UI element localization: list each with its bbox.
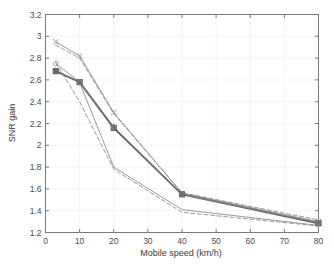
marker-x-upper-solid-x: [53, 39, 58, 44]
x-tick-label: 0: [43, 237, 48, 246]
y-tick-label: 1.2: [30, 228, 42, 237]
y-tick-label: 1.4: [30, 206, 42, 215]
grid-lines: [46, 15, 319, 233]
series-line-lower-dashed-ci: [56, 62, 319, 226]
y-tick-label: 3.2: [30, 10, 42, 19]
y-tick-label: 1.8: [30, 163, 42, 172]
chart-figure: 01020304050607080 1.21.41.61.822.22.42.6…: [0, 0, 334, 270]
y-tick-label: 2.4: [30, 97, 42, 106]
marker-square-mean-bold-square: [53, 69, 58, 74]
y-axis-title: SNR gain: [7, 104, 17, 143]
x-tick-label: 40: [177, 237, 186, 246]
y-tick-label: 2.6: [30, 76, 42, 85]
series-line-lower-solid: [56, 70, 319, 225]
x-tick-label: 80: [314, 237, 323, 246]
x-tick-label: 10: [75, 237, 84, 246]
marker-square-mean-bold-square: [77, 79, 82, 84]
y-tick-label: 2: [37, 141, 42, 150]
x-axis-title: Mobile speed (km/h): [140, 248, 222, 258]
x-tick-label: 30: [143, 237, 152, 246]
x-tick-label: 70: [280, 237, 289, 246]
x-tick-label: 50: [211, 237, 220, 246]
series-line-middle-solid-diamond: [56, 64, 319, 223]
y-tick-label: 2.2: [30, 119, 42, 128]
y-tick-label: 2.8: [30, 54, 42, 63]
plot-canvas: [0, 0, 334, 270]
series-line-mean-bold-square: [56, 71, 319, 223]
y-tick-label: 3: [37, 32, 42, 41]
y-tick-label: 1.6: [30, 185, 42, 194]
x-tick-label: 20: [109, 237, 118, 246]
marker-square-mean-bold-square: [179, 192, 184, 197]
x-tick-label: 60: [246, 237, 255, 246]
data-series-group: [56, 42, 319, 226]
data-markers-group: [53, 39, 321, 226]
